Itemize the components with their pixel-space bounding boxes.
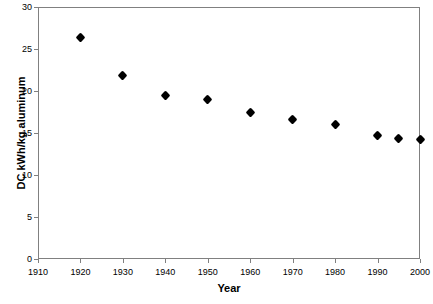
x-axis-tick-mark bbox=[123, 259, 124, 263]
y-axis-tick-mark bbox=[34, 49, 38, 50]
y-axis-tick-label: 5 bbox=[4, 212, 32, 223]
y-axis-tick-mark bbox=[34, 133, 38, 134]
x-axis-tick-mark bbox=[208, 259, 209, 263]
x-axis-tick-mark bbox=[293, 259, 294, 263]
x-axis-tick-label: 1970 bbox=[273, 266, 313, 278]
plot-area bbox=[38, 7, 420, 259]
y-axis-tick-mark bbox=[34, 91, 38, 92]
x-axis-tick-label: 2000 bbox=[400, 266, 433, 278]
x-axis-tick-mark bbox=[38, 259, 39, 263]
x-axis-tick-label: 1950 bbox=[188, 266, 228, 278]
y-axis-tick-label: 30 bbox=[4, 2, 32, 13]
x-axis-tick-mark bbox=[165, 259, 166, 263]
x-axis-tick-label: 1930 bbox=[103, 266, 143, 278]
y-axis-tick-label: 25 bbox=[4, 44, 32, 55]
x-axis-tick-label: 1920 bbox=[60, 266, 100, 278]
x-axis-title: Year bbox=[38, 282, 420, 294]
x-axis-tick-mark bbox=[378, 259, 379, 263]
y-axis-tick-mark bbox=[34, 175, 38, 176]
chart-figure: DC kWh/kg aluminum 051015202530 19101920… bbox=[0, 0, 433, 304]
y-axis-tick-mark bbox=[34, 7, 38, 8]
x-axis-tick-mark bbox=[420, 259, 421, 263]
x-axis-tick-label: 1910 bbox=[18, 266, 58, 278]
x-axis-tick-label: 1960 bbox=[230, 266, 270, 278]
y-axis-tick-label: 20 bbox=[4, 86, 32, 97]
y-axis-tick-label: 15 bbox=[4, 128, 32, 139]
x-axis-tick-mark bbox=[335, 259, 336, 263]
y-axis-tick-mark bbox=[34, 217, 38, 218]
y-axis-tick-label: 0 bbox=[4, 254, 32, 265]
x-axis-tick-mark bbox=[80, 259, 81, 263]
x-axis-tick-mark bbox=[250, 259, 251, 263]
x-axis-tick-label: 1990 bbox=[358, 266, 398, 278]
y-axis-tick-label: 10 bbox=[4, 170, 32, 181]
x-axis-tick-label: 1940 bbox=[145, 266, 185, 278]
x-axis-tick-label: 1980 bbox=[315, 266, 355, 278]
